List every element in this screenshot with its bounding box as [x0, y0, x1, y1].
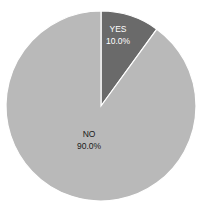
label-yes-pct: 10.0%: [106, 36, 131, 46]
label-no-name: NO: [83, 129, 96, 139]
label-yes-name: YES: [109, 24, 126, 34]
pie-chart: YES 10.0% NO 90.0%: [0, 0, 203, 209]
pie-slice-no: [6, 11, 196, 201]
label-no-pct: 90.0%: [77, 141, 102, 151]
